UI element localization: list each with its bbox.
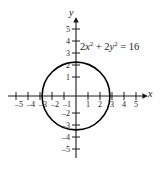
y-tick-label: 5: [66, 26, 70, 34]
equation-equals-sign: =: [120, 41, 126, 52]
x-tick-label: –1: [63, 101, 71, 109]
y-tick-label: 1: [66, 74, 70, 82]
x-tick-label: –5: [15, 101, 23, 109]
x-tick-label: –4: [27, 101, 35, 109]
y-axis-label: y: [69, 8, 73, 18]
x-tick-label: –2: [51, 101, 59, 109]
x-tick-label: 5: [134, 101, 138, 109]
x-tick-label: 1: [86, 101, 90, 109]
equation-exponent-x: 2: [90, 40, 93, 47]
x-tick-label: 4: [122, 101, 126, 109]
y-tick-label: –4: [62, 134, 70, 142]
equation-plus-sign: +: [96, 41, 102, 52]
y-tick-label: 4: [66, 38, 70, 46]
x-tick-label: 3: [110, 101, 114, 109]
y-tick-label: 3: [66, 50, 70, 58]
equation-annotation: 2x2 + 2y2 = 16: [80, 42, 139, 53]
y-tick-label: –3: [62, 122, 70, 130]
y-tick-label: –5: [62, 146, 70, 154]
equation-constant: 16: [129, 41, 140, 52]
coordinate-plane-figure: x y –5 –4 –3 –2 –1 1 2 3 4 5 5 4 3 2 1 –…: [0, 0, 166, 170]
y-tick-label: 2: [66, 62, 70, 70]
y-tick-label: –2: [62, 110, 70, 118]
x-axis-label: x: [148, 89, 152, 99]
x-tick-label: 2: [98, 101, 102, 109]
equation-exponent-y: 2: [114, 40, 117, 47]
graph-canvas: [0, 0, 166, 170]
x-tick-label: –3: [39, 101, 47, 109]
